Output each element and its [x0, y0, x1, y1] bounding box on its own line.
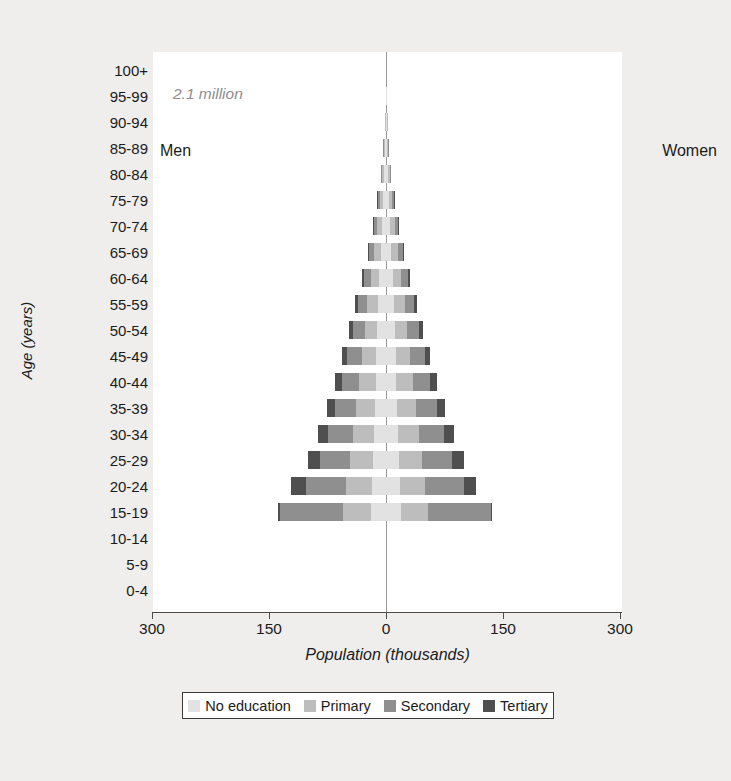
bar-segment [422, 451, 452, 469]
bar-segment [394, 191, 395, 209]
bar-row [0, 139, 731, 157]
bar-segment [410, 347, 425, 365]
bar-segment [437, 399, 445, 417]
bar-row [0, 113, 731, 131]
x-axis-tick [152, 612, 153, 619]
bar-segment [395, 321, 408, 339]
bar-segment [386, 503, 401, 521]
bar-row [0, 243, 731, 261]
bar-segment [419, 321, 423, 339]
bar-segment [386, 295, 394, 313]
bar-segment [491, 503, 492, 521]
x-axis-line [153, 612, 622, 613]
chart-page: 100+95-9990-9485-8980-8475-7970-7465-696… [0, 0, 731, 781]
x-axis-tick-label: 150 [473, 620, 533, 638]
bar-segment [398, 217, 399, 235]
bar-segment [413, 373, 431, 391]
bar-segment [444, 425, 454, 443]
bar-segment [430, 373, 437, 391]
bar-segment [386, 347, 396, 365]
x-axis-tick [620, 612, 621, 619]
bar-row [0, 191, 731, 209]
bar-row [0, 399, 731, 417]
x-axis-tick-label: 300 [122, 620, 182, 638]
legend-label: No education [205, 698, 290, 714]
bar-segment [416, 399, 437, 417]
bar-segment [419, 425, 444, 443]
bar-row [0, 87, 731, 105]
bar-segment [414, 295, 417, 313]
bar-segment [386, 477, 400, 495]
bar-segment [386, 87, 387, 105]
bar-segment [405, 295, 414, 313]
bar-segment [386, 321, 395, 339]
x-axis-tick [386, 612, 387, 619]
legend-item: Primary [304, 698, 371, 714]
legend-label: Tertiary [500, 698, 548, 714]
bar-segment [399, 451, 422, 469]
legend-swatch [304, 700, 316, 712]
bar-row [0, 503, 731, 521]
bar-segment [391, 243, 398, 261]
bar-row [0, 61, 731, 79]
bar-segment [388, 139, 389, 157]
bar-row [0, 165, 731, 183]
legend-swatch [188, 700, 200, 712]
bar-segment [401, 503, 428, 521]
bar-segment [407, 321, 419, 339]
x-axis-tick [503, 612, 504, 619]
bar-segment [425, 477, 464, 495]
bar-row [0, 425, 731, 443]
bar-segment [386, 269, 393, 287]
bar-segment [393, 269, 402, 287]
legend-item: Secondary [384, 698, 470, 714]
bar-segment [396, 347, 411, 365]
bar-segment [396, 373, 412, 391]
legend-label: Primary [321, 698, 371, 714]
legend-swatch [483, 700, 495, 712]
bar-row [0, 451, 731, 469]
bar-segment [425, 347, 430, 365]
bar-segment [401, 269, 408, 287]
bar-segment [386, 451, 399, 469]
bar-row [0, 321, 731, 339]
legend-label: Secondary [401, 698, 470, 714]
bar-row [0, 373, 731, 391]
bar-row [0, 347, 731, 365]
bar-segment [387, 113, 388, 131]
bar-segment [400, 477, 425, 495]
bar-segment [394, 295, 405, 313]
bar-segment [386, 373, 396, 391]
bar-row [0, 295, 731, 313]
legend-item: No education [188, 698, 290, 714]
bar-segment [464, 477, 476, 495]
x-axis-title: Population (thousands) [153, 646, 622, 664]
x-axis-tick-label: 150 [239, 620, 299, 638]
x-axis-tick-label: 300 [590, 620, 650, 638]
legend: No educationPrimarySecondaryTertiary [182, 692, 554, 719]
bar-row [0, 529, 731, 547]
bar-segment [408, 269, 410, 287]
bar-segment [386, 425, 398, 443]
bar-segment [428, 503, 491, 521]
bar-row [0, 217, 731, 235]
bar-row [0, 269, 731, 287]
bar-segment [403, 243, 404, 261]
bar-segment [390, 165, 391, 183]
x-axis-tick [269, 612, 270, 619]
bar-segment [452, 451, 464, 469]
bar-row [0, 581, 731, 599]
legend-swatch [384, 700, 396, 712]
bar-segment [398, 425, 419, 443]
bar-segment [386, 399, 397, 417]
bar-segment [397, 399, 415, 417]
legend-item: Tertiary [483, 698, 548, 714]
x-axis-tick-label: 0 [356, 620, 416, 638]
bar-row [0, 477, 731, 495]
bar-row [0, 555, 731, 573]
